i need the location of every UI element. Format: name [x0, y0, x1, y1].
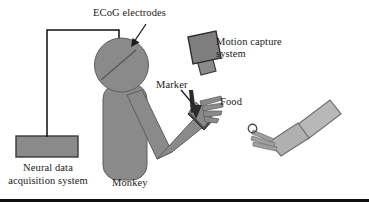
label-neural-data-line1: Neural data: [2, 162, 94, 174]
label-monkey: Monkey: [112, 177, 148, 189]
monkey-head: [95, 38, 149, 92]
neural-data-acquisition-box: [16, 136, 78, 157]
ecog-leader-line: [134, 24, 146, 42]
human-arm-with-food: [248, 100, 341, 156]
amplifier-box-shape: [16, 136, 78, 157]
figure-panel: ECoG electrodes Motion capture system Ma…: [0, 0, 369, 202]
label-neural-data-line2: acquisition system: [2, 175, 94, 187]
label-ecog-electrodes: ECoG electrodes: [82, 7, 177, 19]
label-marker: Marker: [156, 79, 188, 91]
label-motion-capture-line2: system: [216, 48, 246, 60]
label-food: Food: [220, 96, 242, 108]
human-fingers: [251, 130, 277, 151]
label-motion-capture-line1: Motion capture: [216, 36, 282, 48]
bottom-rule: [0, 199, 369, 202]
